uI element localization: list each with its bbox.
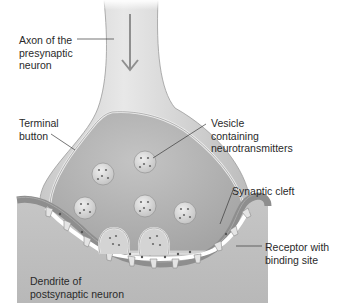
label-synaptic-cleft: Synaptic cleft	[232, 185, 294, 198]
label-vesicle: Vesicle containing neurotransmitters	[211, 117, 293, 155]
vesicle	[92, 163, 114, 185]
fusing-vesicle	[139, 228, 169, 255]
vesicle	[174, 202, 196, 224]
vesicle	[134, 151, 156, 173]
fusing-vesicle	[99, 228, 129, 254]
vesicle	[74, 197, 96, 219]
label-dendrite: Dendrite of postsynaptic neuron	[30, 275, 124, 300]
label-axon: Axon of the presynaptic neuron	[19, 34, 73, 72]
vesicle	[134, 195, 156, 217]
label-terminal-button: Terminal button	[19, 117, 59, 142]
label-receptor: Receptor with binding site	[265, 241, 329, 266]
